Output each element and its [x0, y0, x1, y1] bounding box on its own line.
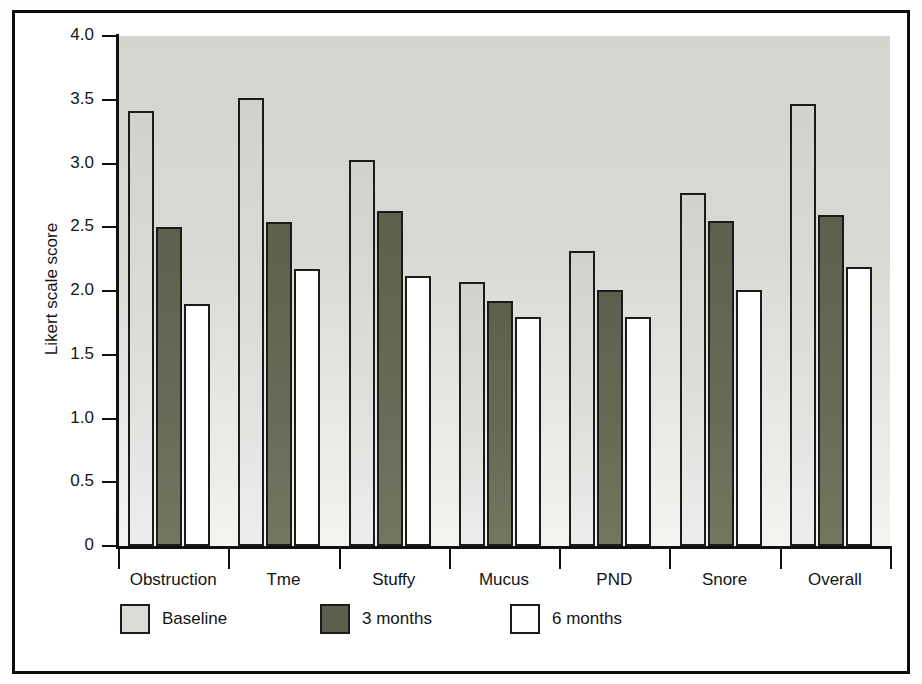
x-axis-group-separator	[780, 549, 782, 569]
x-axis-group-separator	[228, 549, 230, 569]
y-axis-tick	[102, 354, 117, 356]
legend-swatch-icon	[510, 604, 540, 634]
bar-obstruction-3-months	[156, 227, 182, 546]
bar-pnd-baseline	[569, 251, 595, 546]
x-axis-group-separator	[449, 549, 451, 569]
legend: Baseline3 months6 months	[120, 604, 640, 644]
x-axis-line	[116, 546, 892, 549]
y-axis-tick-label: 1.0	[40, 408, 94, 428]
bar-tme-3-months	[266, 222, 292, 546]
y-axis-tick-label: 3.0	[40, 153, 94, 173]
y-axis-tick	[102, 545, 117, 547]
y-axis-tick	[102, 418, 117, 420]
bar-mucus-3-months	[487, 301, 513, 546]
bar-stuffy-baseline	[349, 160, 375, 546]
bar-overall-baseline	[790, 104, 816, 546]
bar-obstruction-6-months	[184, 304, 210, 546]
bar-overall-3-months	[818, 215, 844, 547]
x-axis-group-separator	[339, 549, 341, 569]
y-axis-tick	[102, 163, 117, 165]
bar-snore-6-months	[736, 290, 762, 546]
bar-tme-baseline	[238, 98, 264, 546]
bar-pnd-3-months	[597, 290, 623, 546]
legend-label: 6 months	[552, 609, 622, 629]
figure: 00.51.01.52.02.53.03.54.0 Likert scale s…	[0, 0, 922, 684]
y-axis-tick-label: 0	[40, 535, 94, 555]
legend-label: 3 months	[362, 609, 432, 629]
x-axis-end-tick	[890, 549, 892, 569]
legend-item-3-months[interactable]: 3 months	[320, 604, 432, 634]
legend-label: Baseline	[162, 609, 227, 629]
y-axis-tick	[102, 481, 117, 483]
x-axis-end-tick	[118, 549, 120, 569]
bar-stuffy-6-months	[405, 276, 431, 546]
bar-pnd-6-months	[625, 317, 651, 547]
y-axis-label: Likert scale score	[42, 189, 62, 389]
y-axis-tick	[102, 226, 117, 228]
legend-swatch-icon	[320, 604, 350, 634]
x-axis-group-separator	[559, 549, 561, 569]
bar-obstruction-baseline	[128, 111, 154, 546]
x-axis-group-separator	[669, 549, 671, 569]
y-axis-tick	[102, 35, 117, 37]
y-axis-tick-label: 3.5	[40, 89, 94, 109]
bar-snore-baseline	[680, 193, 706, 546]
y-axis-line	[116, 34, 119, 548]
legend-item-6-months[interactable]: 6 months	[510, 604, 622, 634]
y-axis-tick-label: 0.5	[40, 471, 94, 491]
y-axis-tick	[102, 99, 117, 101]
bar-snore-3-months	[708, 221, 734, 546]
figure-frame: 00.51.01.52.02.53.03.54.0 Likert scale s…	[12, 10, 910, 674]
x-axis-category-label: Overall	[755, 570, 915, 590]
legend-item-baseline[interactable]: Baseline	[120, 604, 227, 634]
bar-stuffy-3-months	[377, 211, 403, 546]
y-axis-tick-label: 4.0	[40, 25, 94, 45]
bar-overall-6-months	[846, 267, 872, 546]
legend-swatch-icon	[120, 604, 150, 634]
bar-mucus-baseline	[459, 282, 485, 546]
y-axis-tick	[102, 290, 117, 292]
bar-tme-6-months	[294, 269, 320, 546]
bar-mucus-6-months	[515, 317, 541, 547]
